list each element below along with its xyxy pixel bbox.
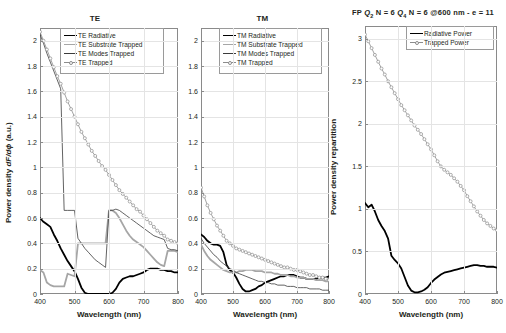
series-marker: [87, 143, 90, 146]
x-axis-tick: [233, 291, 234, 294]
series-marker: [469, 200, 472, 203]
gridline-vertical: [265, 28, 266, 294]
series-marker: [159, 232, 162, 235]
y-axis-tick-label: 0: [340, 291, 362, 298]
series-marker: [377, 60, 380, 63]
series-marker: [254, 255, 257, 258]
y-axis-tick: [40, 269, 43, 270]
legend-label: TM Radiative: [236, 32, 276, 39]
y-axis-tick-label: 1.2: [176, 139, 198, 146]
series-marker: [260, 257, 263, 260]
panel-te-y-axis-title: Power density dF/dϕ (a.u.): [4, 122, 13, 223]
y-axis-tick-label: 1.8: [15, 63, 37, 70]
panel-te: TE Power density dF/dϕ (a.u.) Wavelength…: [0, 0, 190, 333]
series-marker: [39, 30, 42, 33]
y-axis-tick: [365, 124, 368, 125]
x-axis-tick: [365, 291, 366, 294]
y-axis-tick: [365, 251, 368, 252]
gridline-vertical: [109, 28, 110, 294]
legend-marker-icon: [69, 61, 73, 65]
legend-line: [410, 33, 423, 34]
series-marker: [456, 180, 459, 183]
series-marker: [170, 239, 173, 242]
series-marker: [403, 109, 406, 112]
y-axis-tick: [201, 117, 204, 118]
y-axis-tick: [201, 269, 204, 270]
x-axis-tick-label: 700: [130, 298, 158, 305]
series-marker: [443, 168, 446, 171]
x-axis-tick: [201, 291, 202, 294]
y-axis-tick-label: 0.5: [340, 248, 362, 255]
series-marker: [104, 168, 107, 171]
y-axis-tick: [201, 142, 204, 143]
x-axis-tick: [109, 291, 110, 294]
legend-line: [223, 35, 236, 36]
series-marker: [449, 173, 452, 176]
y-axis-tick: [40, 218, 43, 219]
series-marker: [280, 265, 283, 268]
x-axis-tick: [297, 291, 298, 294]
y-axis-tick: [40, 91, 43, 92]
series-marker: [222, 234, 225, 237]
series-marker: [125, 196, 128, 199]
series-marker: [235, 247, 238, 250]
series-marker: [56, 75, 59, 78]
y-axis-tick: [201, 243, 204, 244]
y-axis-tick: [40, 66, 43, 67]
x-axis-tick-label: 800: [483, 298, 506, 305]
series-marker: [446, 171, 449, 174]
series-marker: [128, 200, 131, 203]
series-marker: [209, 211, 212, 214]
legend-label: TM Trapped: [236, 59, 273, 66]
y-axis-tick: [40, 193, 43, 194]
x-axis-tick: [431, 291, 432, 294]
legend-item: TE Modes Trapped: [64, 49, 160, 58]
series-marker: [400, 104, 403, 107]
series-marker: [364, 33, 367, 36]
series-marker: [299, 270, 302, 273]
y-axis-tick: [201, 41, 204, 42]
series-marker: [324, 277, 327, 280]
series-marker: [459, 184, 462, 187]
legend-line: [223, 44, 236, 45]
y-axis-tick: [40, 294, 43, 295]
y-axis-tick-label: 0.8: [15, 189, 37, 196]
legend-swatch: [223, 31, 236, 40]
series-marker: [111, 179, 114, 182]
y-axis-tick-label: 2.5: [340, 78, 362, 85]
panel-fp-x-axis-title: Wavelength (nm): [345, 310, 506, 319]
series-marker: [49, 57, 52, 60]
x-axis-tick-label: 700: [450, 298, 478, 305]
legend-item: Radiative Power: [410, 29, 490, 38]
y-axis-tick-label: 2: [15, 37, 37, 44]
series-marker: [244, 251, 247, 254]
series-marker: [156, 229, 159, 232]
series-marker: [393, 92, 396, 95]
series-marker: [416, 128, 419, 131]
panel-fp: FP Q2 N = 6 Q4 N = 6 @600 nm - e = 11 Po…: [340, 0, 506, 333]
legend-item: TM Modes Trapped: [223, 49, 318, 58]
series-marker: [308, 274, 311, 277]
series-marker: [59, 82, 62, 85]
y-axis-tick: [40, 41, 43, 42]
series-marker: [315, 275, 318, 278]
series-marker: [426, 143, 429, 146]
y-axis-tick: [365, 209, 368, 210]
series-marker: [433, 154, 436, 157]
y-axis-tick-label: 1.5: [340, 163, 362, 170]
y-axis-tick-label: 2: [340, 120, 362, 127]
series-marker: [83, 137, 86, 140]
series-marker: [118, 189, 121, 192]
y-axis-tick: [40, 167, 43, 168]
series-marker: [383, 73, 386, 76]
series-marker: [466, 195, 469, 198]
y-axis-tick: [201, 91, 204, 92]
gridline-vertical: [144, 28, 145, 294]
y-axis-tick-label: 0.4: [176, 240, 198, 247]
series-marker: [420, 133, 423, 136]
series-marker: [200, 186, 203, 189]
series-marker: [328, 279, 331, 282]
x-axis-tick: [398, 291, 399, 294]
y-axis-tick: [40, 117, 43, 118]
y-axis-tick-label: 1.4: [176, 113, 198, 120]
